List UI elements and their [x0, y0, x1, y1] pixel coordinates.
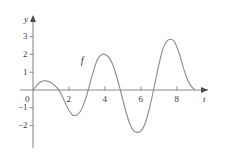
- function-curve: [33, 39, 195, 132]
- figure-container: y t f 0 2468 −2−1123: [0, 0, 225, 155]
- x-tick-label: 6: [139, 95, 144, 104]
- x-axis-label: t: [203, 95, 206, 104]
- y-tick-label: −2: [18, 121, 28, 130]
- x-tick-label: 8: [175, 95, 180, 104]
- curve-label: f: [81, 56, 84, 66]
- y-tick-label: 3: [23, 32, 28, 41]
- y-axis-label: y: [24, 15, 28, 24]
- chart-canvas: [0, 0, 225, 155]
- x-tick-label: 2: [67, 95, 72, 104]
- y-tick-label: −1: [18, 103, 28, 112]
- y-tick-label: 1: [23, 68, 28, 77]
- x-tick-label: 4: [103, 95, 108, 104]
- y-tick-label: 2: [23, 50, 28, 59]
- x-axis-arrowhead: [201, 87, 208, 93]
- y-axis-arrowhead: [30, 15, 36, 22]
